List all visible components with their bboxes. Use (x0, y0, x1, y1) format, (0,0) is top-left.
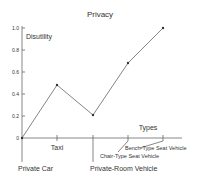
y-tick-label: 0 (16, 135, 19, 141)
chart-title: Privacy (87, 10, 113, 19)
category-label-private-room: Private-Room Vehicle (90, 165, 157, 172)
category-label-taxi: Taxi (51, 144, 64, 151)
y-tick-label: 0.8 (12, 47, 19, 53)
category-label-bench: Bench-Type Seat Vehicle (125, 145, 186, 151)
x-axis-label: Types (139, 124, 158, 132)
disutility-line (22, 28, 163, 138)
y-tick-labels: 1.0 0.8 0.6 0.4 0.2 0 (12, 25, 19, 141)
category-label-private-car: Private Car (18, 165, 54, 172)
category-label-chair: Chair-Type Seat Vehicle (100, 153, 159, 159)
y-ticks (22, 28, 25, 116)
data-points (21, 27, 164, 139)
y-tick-label: 0.4 (12, 91, 19, 97)
privacy-chart: Privacy 1.0 0.8 0.6 0.4 0.2 0 Disutility… (0, 0, 205, 182)
y-axis-label: Disutility (26, 33, 53, 41)
y-tick-label: 1.0 (12, 25, 19, 31)
y-tick-label: 0.6 (12, 69, 19, 75)
y-tick-label: 0.2 (12, 113, 19, 119)
